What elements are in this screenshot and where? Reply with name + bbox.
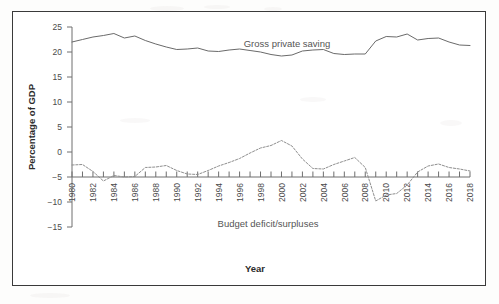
x-tick-label: 1984 [109,183,119,202]
y-axis-title: Percentage of GDP [26,83,37,170]
x-tick-label: 1988 [151,183,161,202]
y-tick-label: 20 [53,47,63,57]
x-axis-ticks [72,172,470,178]
x-tick-label: 1996 [235,183,245,202]
chart-figure: 2520151050−5−10−15 198019821984198619881… [0,0,499,304]
series-label-gross-private-saving: Gross private saving [244,38,331,49]
y-tick-label: −5 [52,172,62,182]
x-tick-label: 2008 [360,183,370,202]
y-tick-label: −15 [48,222,63,232]
x-tick-label: 2014 [423,183,433,202]
y-tick-label: 15 [53,72,63,82]
x-tick-label: 1980 [67,183,77,202]
y-tick-label: 0 [57,147,62,157]
x-tick-label: 2010 [381,183,391,202]
x-tick-label: 2018 [465,183,475,202]
x-tick-label: 2000 [277,183,287,202]
y-tick-label: 5 [57,122,62,132]
x-tick-label: 2006 [340,183,350,202]
y-tick-label: 10 [53,97,63,107]
x-tick-label: 1986 [130,183,140,202]
y-tick-label: 25 [53,22,63,32]
x-tick-label: 2012 [402,183,412,202]
x-tick-label: 2016 [444,183,454,202]
chart-plot-area: 2520151050−5−10−15 198019821984198619881… [0,0,499,304]
series-label-budget-deficit-surpluses: Budget deficit/surpluses [218,218,319,229]
x-tick-label: 1982 [88,183,98,202]
x-tick-label: 2002 [298,183,308,202]
y-axis-tick-labels: 2520151050−5−10−15 [48,22,63,232]
x-axis-title: Year [245,263,265,274]
x-tick-label: 2004 [319,183,329,202]
x-tick-label: 1998 [256,183,266,202]
x-tick-label: 1994 [214,183,224,202]
y-tick-label: −10 [48,197,63,207]
x-tick-label: 1992 [193,183,203,202]
x-tick-label: 1990 [172,183,182,202]
x-axis-tick-labels: 1980198219841986198819901992199419961998… [67,183,475,202]
